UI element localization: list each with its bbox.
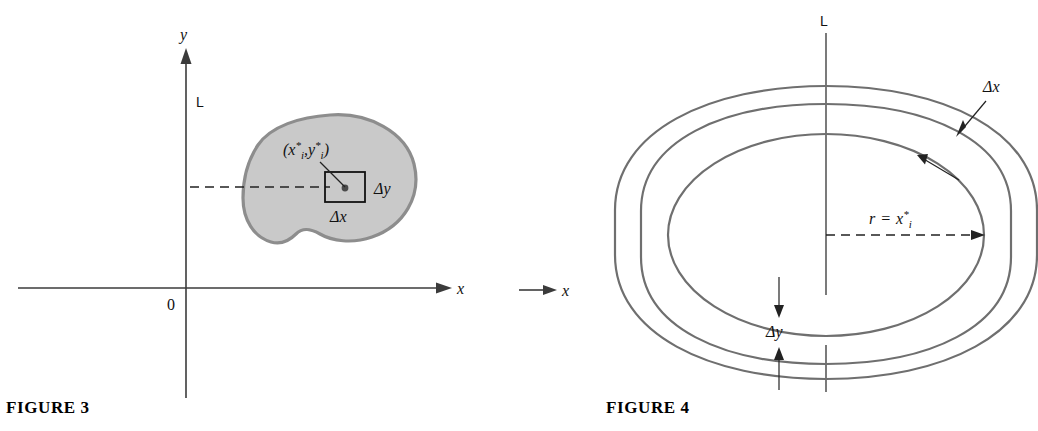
sample-point-close-paren: )	[323, 141, 329, 159]
y-axis-label: y	[178, 26, 188, 44]
svg-text:r=x*i: r=x*i	[869, 208, 912, 230]
radius-equals-sign: =	[880, 210, 891, 227]
delta-x-group-fig4: Δx	[956, 78, 1000, 137]
y-axis-arrowhead	[181, 48, 192, 64]
x-direction-arrowhead	[543, 285, 557, 295]
axis-of-revolution-label-fig4: L	[820, 13, 828, 29]
delta-y-label-fig3: Δy	[373, 180, 391, 198]
x-axis-group: x	[18, 280, 464, 297]
figure-3-caption: FIGURE 3	[6, 398, 90, 418]
radius-x-subscript: i	[909, 218, 912, 230]
delta-y-label-fig4: Δy	[765, 323, 783, 341]
sample-point-dot	[342, 185, 349, 192]
x-axis-label: x	[456, 280, 464, 297]
sample-point-x-base: x	[287, 141, 295, 158]
radius-r-symbol: r	[869, 210, 876, 227]
figure-4-caption: FIGURE 4	[606, 398, 690, 418]
x-direction-indicator: x	[519, 282, 569, 299]
delta-y-upper-arrowhead	[774, 305, 784, 318]
x-axis-arrowhead	[436, 283, 452, 294]
delta-y-lower-arrowhead	[774, 347, 784, 360]
x-direction-label: x	[561, 282, 569, 299]
radius-indicator-group: r=x*i	[826, 208, 985, 240]
figure-4-diagram: L x r=x*i	[519, 0, 1038, 431]
shell-thickness-pointer	[917, 154, 959, 180]
shell-thickness-line	[922, 158, 959, 180]
origin-label: 0	[167, 296, 175, 313]
y-axis-group: y L	[178, 26, 204, 398]
figure-pair-stage: x y L 0 (x*i,y*i) Δy Δx	[0, 0, 1038, 431]
shell-thickness-arrowhead	[917, 154, 928, 165]
axis-of-revolution-label-fig3: L	[196, 94, 204, 110]
figure-3-diagram: x y L 0 (x*i,y*i) Δy Δx	[0, 0, 519, 431]
delta-y-group-fig4: Δy	[765, 277, 784, 390]
delta-x-label-fig4: Δx	[982, 78, 1000, 95]
delta-x-label-fig3: Δx	[329, 208, 347, 225]
radius-x-base: x	[895, 210, 903, 227]
